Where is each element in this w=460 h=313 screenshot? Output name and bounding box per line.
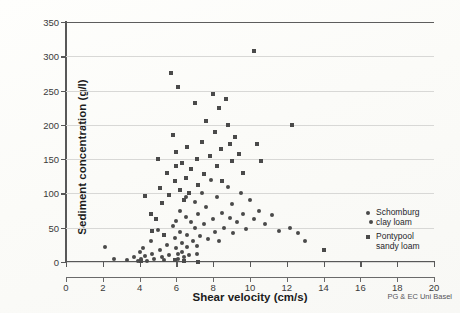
data-point	[196, 260, 200, 264]
y-tick-label-200: 200	[43, 119, 59, 130]
data-point	[145, 259, 149, 263]
data-point	[193, 226, 197, 230]
data-point	[195, 252, 199, 256]
data-point	[162, 233, 166, 237]
data-point	[228, 142, 232, 146]
y-tick-label-300: 300	[43, 51, 59, 62]
data-point	[248, 198, 252, 202]
data-point	[204, 205, 208, 209]
data-point	[143, 254, 147, 258]
data-point	[180, 241, 184, 245]
data-point	[160, 201, 164, 205]
data-point	[191, 239, 195, 243]
data-point	[139, 259, 143, 263]
data-point	[198, 234, 202, 238]
data-point	[206, 237, 210, 241]
y-tick-150	[61, 159, 66, 160]
data-point	[322, 248, 326, 252]
data-point	[184, 215, 188, 219]
data-point	[174, 246, 178, 250]
data-point	[263, 222, 267, 226]
y-tick-label-100: 100	[43, 188, 59, 199]
legend-marker-circle-icon	[366, 211, 370, 215]
data-point	[220, 179, 224, 183]
data-point	[195, 244, 199, 248]
data-point	[228, 216, 232, 220]
data-point	[217, 239, 221, 243]
data-point	[230, 159, 234, 163]
data-point	[231, 231, 235, 235]
x-inner-tick-2	[103, 262, 104, 267]
legend-marker-square-icon	[366, 235, 370, 239]
data-point	[224, 97, 228, 101]
data-point	[141, 246, 145, 250]
y-tick-300	[61, 56, 66, 57]
x-inner-tick-10	[250, 262, 251, 267]
data-point	[189, 167, 193, 171]
data-point	[213, 130, 217, 134]
data-point	[230, 202, 234, 206]
credit-text: PG & EC Uni Basel	[387, 292, 452, 301]
x-axis-title: Shear velocity (cm/s)	[66, 291, 434, 303]
data-point	[174, 150, 178, 154]
data-point	[165, 171, 169, 175]
gridline-y-350	[66, 22, 434, 23]
y-tick-label-50: 50	[48, 222, 59, 233]
data-point	[252, 217, 256, 221]
y-tick-250	[61, 91, 66, 92]
data-point	[215, 164, 219, 168]
data-point	[132, 255, 136, 259]
data-point	[196, 183, 200, 187]
data-point	[167, 253, 171, 257]
data-point	[255, 142, 259, 146]
data-point	[167, 193, 171, 197]
data-point	[180, 161, 184, 165]
data-point	[235, 220, 239, 224]
data-point	[187, 191, 191, 195]
data-point	[241, 212, 245, 216]
x-inner-tick-6	[176, 262, 177, 267]
y-tick-label-0: 0	[54, 257, 59, 268]
gridline-y-100	[66, 193, 434, 194]
data-point	[237, 152, 241, 156]
data-point	[171, 133, 175, 137]
data-point	[215, 195, 219, 199]
y-tick-label-350: 350	[43, 17, 59, 28]
gridline-y-250	[66, 91, 434, 92]
data-point	[241, 171, 245, 175]
data-point	[162, 258, 166, 262]
legend: Schomburg clay loam Pontypool sandy loam	[366, 208, 458, 256]
y-tick-100	[61, 193, 66, 194]
data-point	[233, 135, 237, 139]
data-point	[252, 49, 256, 53]
data-point	[150, 252, 154, 256]
data-point	[149, 212, 153, 216]
data-point	[288, 226, 292, 230]
data-point	[239, 191, 243, 195]
data-point	[257, 209, 261, 213]
data-point	[200, 140, 204, 144]
scatter-chart-figure: Sediment concentration (g/l) 05010015020…	[0, 0, 460, 313]
data-point	[226, 185, 230, 189]
data-point	[184, 176, 188, 180]
data-point	[217, 106, 221, 110]
x-inner-tick-14	[324, 262, 325, 267]
legend-label-schomburg: Schomburg clay loam	[376, 208, 419, 227]
data-point	[125, 258, 129, 262]
data-point	[185, 145, 189, 149]
x-inner-tick-18	[397, 262, 398, 267]
data-point	[169, 71, 173, 75]
data-point	[296, 231, 300, 235]
data-point	[182, 198, 186, 202]
data-point	[202, 172, 206, 176]
data-point	[187, 253, 191, 257]
data-point	[200, 191, 204, 195]
data-point	[208, 154, 212, 158]
data-point	[259, 159, 263, 163]
data-point	[182, 259, 186, 263]
data-point	[270, 213, 274, 217]
data-point	[178, 230, 182, 234]
data-point	[173, 258, 177, 262]
y-tick-50	[61, 228, 66, 229]
data-point	[149, 239, 153, 243]
